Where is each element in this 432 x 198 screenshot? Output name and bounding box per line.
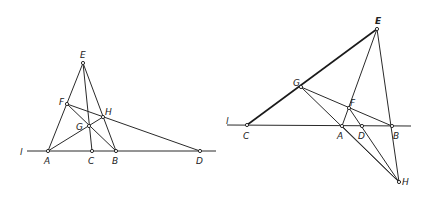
point-E (81, 61, 84, 64)
point-C (90, 149, 93, 152)
label-C: C (88, 156, 95, 166)
point-C (245, 123, 248, 126)
segment-AE (48, 63, 83, 151)
label-A: A (336, 131, 343, 141)
point-A (340, 124, 343, 127)
right-figure: l E G F C A D B H (226, 16, 411, 187)
label-B: B (112, 156, 118, 166)
segment-AH (342, 126, 399, 182)
point-E (375, 27, 378, 30)
label-F: F (59, 97, 65, 107)
label-l: l (20, 147, 23, 157)
label-C: C (243, 131, 250, 141)
segment-FH (349, 108, 399, 182)
label-E: E (80, 50, 86, 60)
label-H: H (402, 177, 409, 187)
point-A (46, 149, 49, 152)
label-D: D (358, 131, 365, 141)
line-l-right (227, 125, 411, 126)
label-F: F (350, 98, 356, 108)
point-B (390, 124, 393, 127)
point-H (397, 180, 400, 183)
left-figure: l E F H G A C B D (20, 50, 216, 166)
label-H: H (105, 107, 112, 117)
segment-CE (247, 29, 377, 125)
label-E: E (375, 16, 382, 26)
label-B: B (393, 131, 399, 141)
point-B (114, 149, 117, 152)
label-G: G (293, 78, 300, 88)
point-G (87, 124, 90, 127)
point-D (198, 149, 201, 152)
label-G: G (76, 122, 83, 132)
point-D (360, 124, 363, 127)
point-F (65, 102, 68, 105)
label-D: D (196, 156, 203, 166)
segment-EA (342, 29, 377, 126)
label-A: A (43, 156, 50, 166)
label-l: l (226, 116, 229, 126)
segment-EH (377, 29, 399, 182)
segment-GB (301, 87, 392, 126)
projective-geometry-diagram: l E F H G A C B D l E G F C A D B H (0, 0, 432, 198)
